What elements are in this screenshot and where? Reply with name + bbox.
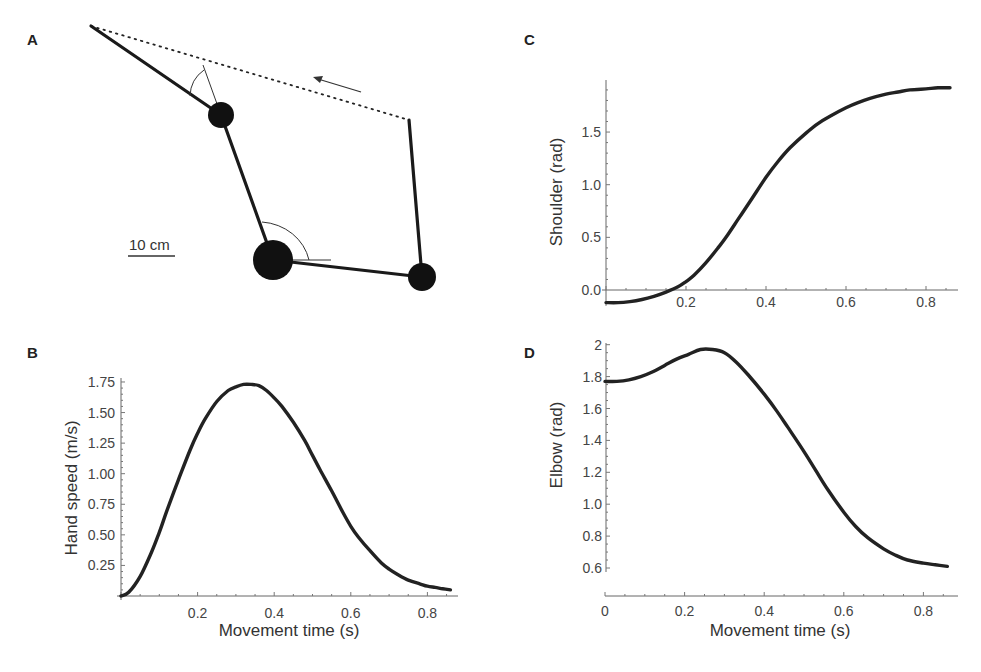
elbow-joint-initial — [408, 263, 436, 291]
panel-a-diagram: A 10 cm — [27, 26, 436, 291]
panel-b-hand-speed-chart: B 0.20.40.60.80.250.500.751.001.251.501.… — [27, 344, 458, 640]
initial-forearm-segment — [409, 120, 422, 277]
hand-path-dotted — [91, 26, 409, 120]
svg-text:0.6: 0.6 — [341, 605, 361, 621]
svg-text:0.5: 0.5 — [582, 229, 602, 245]
svg-text:0.4: 0.4 — [264, 605, 284, 621]
svg-text:0.75: 0.75 — [88, 496, 115, 512]
svg-text:1.5: 1.5 — [582, 124, 602, 140]
hand-speed-curve — [121, 384, 450, 596]
svg-text:1.75: 1.75 — [88, 374, 115, 390]
movement-direction-arrow-icon — [313, 76, 361, 92]
svg-text:1.6: 1.6 — [583, 401, 603, 417]
svg-text:1.4: 1.4 — [583, 432, 603, 448]
svg-text:1.00: 1.00 — [88, 466, 115, 482]
elbow-angle-curve — [605, 349, 947, 566]
svg-text:0.8: 0.8 — [914, 603, 934, 619]
scale-bar-label: 10 cm — [129, 236, 170, 253]
svg-text:0.2: 0.2 — [188, 605, 208, 621]
elbow-y-axis-title: Elbow (rad) — [547, 402, 566, 489]
svg-text:0.2: 0.2 — [675, 603, 695, 619]
shoulder-joint — [253, 240, 293, 280]
elbow-angle-arc — [190, 70, 204, 96]
shoulder-axes — [602, 80, 958, 306]
svg-text:0.6: 0.6 — [834, 603, 854, 619]
final-upper-arm-segment — [221, 115, 273, 260]
elbow-x-axis-title: Movement time (s) — [710, 621, 851, 640]
svg-text:0.0: 0.0 — [582, 282, 602, 298]
shoulder-tick-labels: 0.20.40.60.80.00.51.01.5 — [582, 124, 936, 310]
panel-label-a: A — [27, 31, 38, 48]
panel-d-elbow-chart: D 00.20.40.60.80.60.81.01.21.41.61.82 El… — [524, 337, 958, 640]
hand-speed-y-axis-title: Hand speed (m/s) — [62, 420, 81, 555]
shoulder-angle-curve — [606, 88, 950, 303]
svg-text:1.0: 1.0 — [582, 177, 602, 193]
svg-text:2: 2 — [594, 337, 602, 353]
svg-text:1.0: 1.0 — [583, 496, 603, 512]
svg-text:0.25: 0.25 — [88, 557, 115, 573]
elbow-joint-final — [208, 102, 234, 128]
svg-text:0.4: 0.4 — [756, 294, 776, 310]
panel-label-c: C — [524, 31, 535, 48]
panel-label-d: D — [524, 344, 535, 361]
svg-text:0: 0 — [601, 603, 609, 619]
final-forearm-segment — [91, 26, 221, 115]
figure-canvas: A 10 cm B 0.20.40.60.80.250.500.751. — [0, 0, 981, 672]
svg-text:0.2: 0.2 — [676, 294, 696, 310]
svg-text:1.25: 1.25 — [88, 435, 115, 451]
shoulder-y-axis-title: Shoulder (rad) — [547, 138, 566, 247]
svg-text:0.8: 0.8 — [583, 528, 603, 544]
svg-text:0.4: 0.4 — [754, 603, 774, 619]
svg-text:0.6: 0.6 — [836, 294, 856, 310]
hand-speed-x-axis-title: Movement time (s) — [219, 621, 360, 640]
panel-c-shoulder-chart: C 0.20.40.60.80.00.51.01.5 Shoulder (rad… — [524, 31, 958, 310]
svg-text:0.8: 0.8 — [916, 294, 936, 310]
svg-text:0.8: 0.8 — [418, 605, 438, 621]
svg-text:0.50: 0.50 — [88, 527, 115, 543]
panel-label-b: B — [27, 344, 38, 361]
initial-upper-arm-segment — [273, 260, 422, 277]
svg-text:1.8: 1.8 — [583, 369, 603, 385]
svg-text:0.6: 0.6 — [583, 560, 603, 576]
hand-speed-tick-labels: 0.20.40.60.80.250.500.751.001.251.501.75 — [88, 374, 438, 621]
svg-text:1.2: 1.2 — [583, 464, 603, 480]
svg-text:1.50: 1.50 — [88, 405, 115, 421]
